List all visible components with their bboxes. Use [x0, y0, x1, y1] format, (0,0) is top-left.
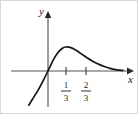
plot-canvas: y x 1 3 2 3: [1, 1, 138, 114]
fraction-denominator: 3: [64, 93, 69, 103]
fraction-denominator: 3: [84, 93, 89, 103]
tick-label-two-thirds: 2 3: [81, 80, 91, 103]
tick-label-one-third: 1 3: [61, 80, 71, 103]
fraction-numerator: 1: [64, 80, 69, 90]
x-axis-label: x: [127, 73, 133, 85]
fraction-numerator: 2: [84, 80, 89, 90]
y-axis-label: y: [38, 5, 44, 17]
function-graph-figure: y x 1 3 2 3: [0, 0, 138, 114]
function-curve: [29, 47, 123, 105]
y-axis-arrowhead: [45, 11, 52, 18]
